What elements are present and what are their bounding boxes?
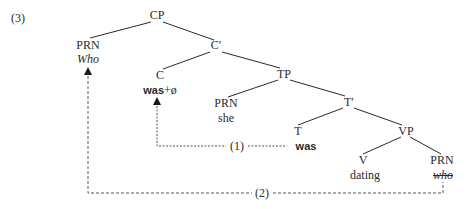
node-prn-she: PRN <box>214 97 237 110</box>
node-c-bar: C′ <box>211 39 222 52</box>
word-dating: dating <box>350 169 380 182</box>
null-suffix: +ø <box>164 83 177 97</box>
movement-path-2 <box>88 76 443 193</box>
word-was: was <box>296 140 317 153</box>
word-was-moved: was <box>143 84 164 96</box>
node-t-bar: T′ <box>344 96 354 109</box>
node-cp: CP <box>150 9 165 22</box>
movement-label-2: (2) <box>255 187 269 200</box>
node-t: T <box>294 125 301 138</box>
word-who-trace: who <box>433 169 453 182</box>
arrowhead-2-icon <box>84 67 92 75</box>
node-v: V <box>359 154 368 167</box>
node-prn-who: PRN <box>76 39 99 52</box>
word-she: she <box>218 112 234 125</box>
node-prn-trace: PRN <box>430 154 453 167</box>
node-tp: TP <box>277 68 291 81</box>
node-vp: VP <box>398 125 413 138</box>
word-who: Who <box>77 53 99 66</box>
word-was-null: was+ø <box>143 84 177 97</box>
movement-label-1: (1) <box>230 140 244 153</box>
arrowhead-1-icon <box>153 97 161 105</box>
node-c: C <box>156 69 164 82</box>
